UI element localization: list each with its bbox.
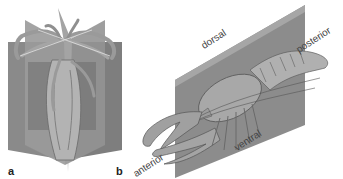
crayfish-illustration (120, 0, 343, 179)
radial-animal-illustration (0, 0, 130, 179)
panel-a-radial-symmetry: a (0, 0, 130, 179)
panel-label-a: a (8, 165, 14, 177)
panel-label-b: b (116, 165, 123, 177)
panel-b-bilateral-symmetry: b (120, 0, 343, 179)
